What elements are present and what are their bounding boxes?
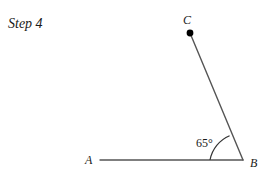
- geometry-diagram: A B C 65°: [0, 0, 266, 175]
- point-label-B: B: [250, 156, 258, 170]
- angle-arc: [210, 136, 230, 160]
- figure-root: Step 4 A B C 65°: [0, 0, 266, 175]
- point-label-A: A: [84, 153, 93, 167]
- point-C-marker: [187, 30, 194, 37]
- point-label-C: C: [183, 13, 192, 27]
- angle-measure-label: 65°: [196, 136, 213, 150]
